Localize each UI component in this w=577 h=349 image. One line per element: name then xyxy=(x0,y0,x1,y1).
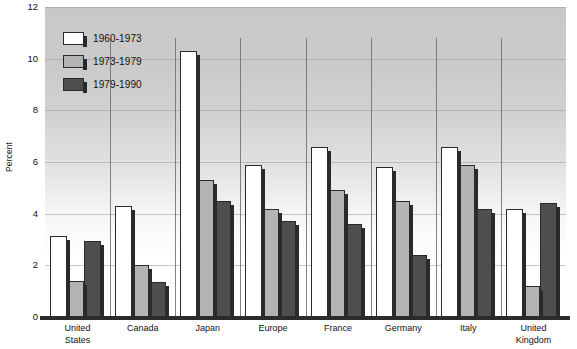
group-separator xyxy=(175,38,176,317)
bar-shadow xyxy=(426,259,430,316)
y-tick-label: 4 xyxy=(10,209,38,219)
bar-chart: Percent 024681012 United StatesCanadaJap… xyxy=(0,0,577,349)
bar-shadow xyxy=(361,228,365,316)
legend-swatch xyxy=(63,55,84,68)
bar xyxy=(376,167,393,317)
bar-shadow xyxy=(213,184,217,316)
x-tick-label: United Kingdom xyxy=(491,323,576,346)
group-separator xyxy=(240,38,241,317)
legend-item: 1973-1979 xyxy=(63,50,142,73)
y-tick-label: 10 xyxy=(10,54,38,64)
bar-shadow xyxy=(100,245,104,316)
y-tick-label: 2 xyxy=(10,260,38,270)
y-tick-label: 0 xyxy=(10,312,38,322)
group-separator xyxy=(501,38,502,317)
bar xyxy=(506,209,523,318)
legend-item: 1979-1990 xyxy=(63,73,142,96)
legend-label: 1979-1990 xyxy=(93,79,142,90)
bar-shadow xyxy=(344,194,348,316)
bar-shadow xyxy=(83,285,87,316)
y-tick-label: 8 xyxy=(10,105,38,115)
bar xyxy=(115,206,132,317)
legend: 1960-19731973-19791979-1990 xyxy=(63,27,142,96)
bar-shadow xyxy=(131,210,135,316)
legend-label: 1973-1979 xyxy=(93,56,142,67)
bar-shadow xyxy=(66,240,70,316)
legend-swatch-shadow xyxy=(83,59,87,70)
legend-swatch xyxy=(63,32,84,45)
group-separator xyxy=(436,38,437,317)
bar-shadow xyxy=(295,225,299,316)
bar-shadow xyxy=(278,213,282,317)
y-tick-label: 12 xyxy=(10,2,38,12)
legend-swatch-shadow xyxy=(83,82,87,93)
y-axis-tick-labels: 024681012 xyxy=(0,0,38,349)
bar xyxy=(245,165,262,317)
y-tick-label: 6 xyxy=(10,157,38,167)
group-separator xyxy=(306,38,307,317)
bar-shadow xyxy=(474,169,478,316)
bar-shadow xyxy=(556,207,560,316)
bar-shadow xyxy=(392,171,396,316)
bar-shadow xyxy=(165,286,169,316)
bar xyxy=(180,51,197,317)
legend-item: 1960-1973 xyxy=(63,27,142,50)
bar-shadow xyxy=(457,151,461,317)
bar-shadow xyxy=(327,151,331,317)
bar-shadow xyxy=(196,55,200,316)
legend-label: 1960-1973 xyxy=(93,33,142,44)
group-separator xyxy=(371,38,372,317)
gridline xyxy=(45,7,566,8)
bar-shadow xyxy=(230,205,234,316)
bar-shadow xyxy=(409,205,413,316)
bar-shadow xyxy=(522,213,526,317)
bar xyxy=(311,147,328,318)
legend-swatch-shadow xyxy=(83,36,87,47)
bar-shadow xyxy=(539,290,543,316)
bar-shadow xyxy=(148,269,152,316)
bar xyxy=(50,236,67,317)
legend-swatch xyxy=(63,78,84,91)
bar-shadow xyxy=(261,169,265,316)
bar-shadow xyxy=(491,213,495,317)
bar xyxy=(441,147,458,318)
